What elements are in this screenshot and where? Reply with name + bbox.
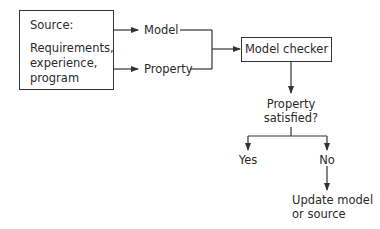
no-label: No xyxy=(307,153,347,167)
decision-line-1: Property xyxy=(251,97,331,111)
model-label: Model xyxy=(144,23,179,37)
property-label: Property xyxy=(144,62,193,76)
update-line-1: Update model xyxy=(292,193,373,207)
update-line-2: or source xyxy=(292,207,346,221)
source-line-1: Requirements, xyxy=(30,41,114,55)
yes-label: Yes xyxy=(228,153,268,167)
model-checker-label: Model checker xyxy=(241,42,332,56)
decision-line-2: satisfied? xyxy=(251,111,331,125)
source-title: Source: xyxy=(30,18,73,32)
source-line-2: experience, xyxy=(30,56,97,70)
source-line-3: program xyxy=(30,71,79,85)
